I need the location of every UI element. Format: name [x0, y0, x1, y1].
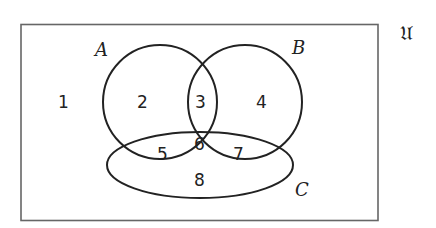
universe-rectangle: [21, 25, 378, 221]
region-5: 5: [157, 144, 168, 164]
region-6: 6: [194, 134, 205, 154]
set-a-label: A: [93, 39, 108, 60]
venn-diagram: A B C 𝔘 1 2 3 4 5 6 7 8: [0, 0, 436, 228]
set-c-label: C: [295, 179, 309, 200]
region-3: 3: [195, 92, 206, 112]
set-b-label: B: [291, 37, 305, 58]
region-2: 2: [137, 92, 148, 112]
region-7: 7: [233, 144, 244, 164]
region-1: 1: [58, 92, 69, 112]
universe-label: 𝔘: [400, 21, 413, 45]
region-8: 8: [194, 170, 205, 190]
region-4: 4: [256, 92, 267, 112]
